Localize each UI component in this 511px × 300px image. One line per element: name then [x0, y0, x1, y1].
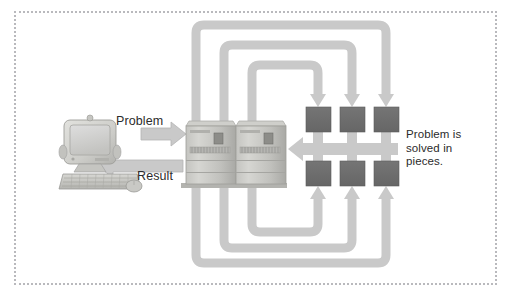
- label-problem-solved-in-pieces: Problem is solved in pieces.: [406, 128, 496, 169]
- piece-square: [306, 107, 331, 132]
- diagram-canvas: Problem Result Problem is solved in piec…: [0, 0, 511, 300]
- arrowhead-up-group: [310, 186, 394, 199]
- server-cabinet-right: [236, 121, 286, 184]
- label-result: Result: [137, 170, 173, 184]
- arrowhead-down-group: [310, 94, 394, 107]
- piece-square: [374, 161, 399, 186]
- server-cabinets: [181, 121, 287, 188]
- piece-square: [340, 107, 365, 132]
- server-cabinet-left: [186, 121, 236, 184]
- return-arrow: [288, 132, 398, 161]
- piece-square: [374, 107, 399, 132]
- piece-square: [306, 161, 331, 186]
- piece-square: [340, 161, 365, 186]
- label-problem: Problem: [116, 115, 163, 129]
